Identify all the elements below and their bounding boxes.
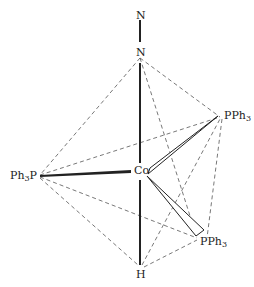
edge-n-pleft [40,58,140,175]
label-co: Co [134,164,149,177]
label-p-left: Ph3P [10,169,38,183]
edge-pleft-pur [40,117,220,175]
edge-pleft-h [40,178,138,265]
bond-pleft-co [40,170,131,177]
edge-h-plr [144,240,197,267]
label-p-lower-right: PPh3 [200,235,227,249]
label-p-upper-right: PPh3 [224,109,251,123]
bonds [40,20,218,265]
structure-canvas: N N Co H Ph3P PPh3 PPh3 [0,0,254,287]
edge-n-plr [140,58,197,238]
wedge-co-pur [148,116,218,174]
edge-pur-plr [207,119,222,238]
polyhedron-edges [40,58,222,267]
wedge-co-plr [147,176,204,236]
atom-labels: N N Co H Ph3P PPh3 PPh3 [10,9,251,281]
molecule-diagram: N N Co H Ph3P PPh3 PPh3 [0,0,254,287]
edge-n-pur [140,58,220,117]
label-n-terminal: N [136,9,146,22]
label-n-bonded: N [136,46,146,59]
label-h: H [136,268,146,281]
